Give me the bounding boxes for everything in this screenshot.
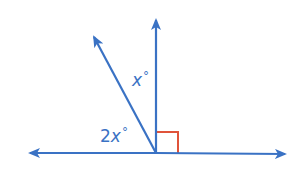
variable-x: x — [132, 70, 142, 90]
degree-symbol: ° — [122, 125, 128, 139]
angle-label-x: x° — [132, 70, 149, 89]
angle-label-2x: 2x° — [100, 126, 128, 145]
variable-x: x — [111, 126, 121, 146]
angle-diagram — [0, 0, 296, 181]
horizontal-line-right — [156, 153, 285, 154]
coefficient: 2 — [100, 126, 111, 146]
degree-symbol: ° — [143, 69, 149, 83]
right-angle-marker — [156, 132, 178, 153]
